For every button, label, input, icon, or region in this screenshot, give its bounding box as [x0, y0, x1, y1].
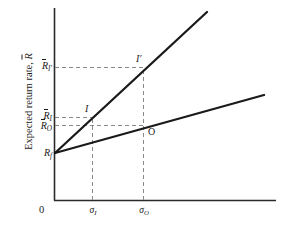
point-label-i: I [85, 104, 88, 114]
origin-label: 0 [39, 205, 44, 216]
point-label-i-prime: I′ [136, 54, 142, 64]
y-tick-label-r-f: Rf [16, 148, 52, 160]
x-tick-label-sigma-o: σO [129, 206, 159, 217]
x-tick-label-sigma-i: σI [78, 206, 108, 217]
y-axis-title-symbol: R [23, 53, 34, 59]
y-tick-sub-r-o: O [47, 125, 52, 133]
y-tick-label-r-i-prime: RI′ [16, 61, 52, 73]
y-tick-base-r-i-prime: R [42, 60, 48, 71]
y-tick-sub-r-f: f [50, 152, 52, 160]
x-tick-sub-sigma-o: O [144, 209, 149, 216]
y-tick-label-r-o: RO [16, 121, 52, 133]
x-tick-sub-sigma-i: I [94, 209, 96, 216]
point-label-o: O [148, 127, 155, 137]
chart-figure: Expected return rate, R RI′ RI RO Rf 0 σ… [0, 0, 282, 232]
y-tick-sub-r-i-prime: I′ [48, 65, 52, 73]
y-tick-base-r-o: R [41, 120, 47, 131]
